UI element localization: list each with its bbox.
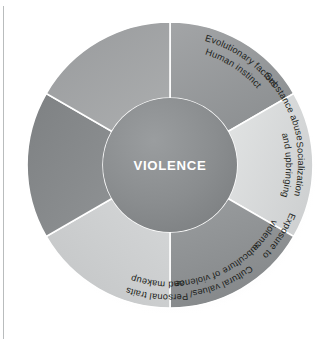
left-margin-rule: [3, 6, 4, 339]
diagram-canvas: VIOLENCE Evolutionary factors Human inst…: [0, 0, 332, 345]
violence-wheel-diagram: VIOLENCE Evolutionary factors Human inst…: [0, 0, 332, 345]
center-label: VIOLENCE: [133, 158, 206, 173]
